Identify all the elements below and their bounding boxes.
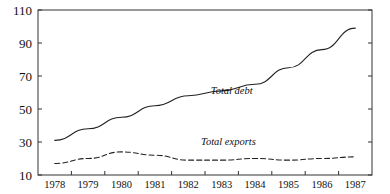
y-axis-tick-label: 70 xyxy=(19,69,32,84)
y-axis-tick-label: 90 xyxy=(19,36,32,51)
series-annotation-total-exports: Total exports xyxy=(201,136,256,147)
x-axis-tick-label: 1982 xyxy=(178,179,199,190)
x-axis-tick-label: 1984 xyxy=(245,179,267,190)
y-axis-tick-label: 10 xyxy=(19,168,32,183)
chart-container: 1030507090110 19781979198019811982198319… xyxy=(0,0,390,194)
chart-background xyxy=(0,0,390,194)
series-annotation-total-debt: Total debt xyxy=(211,85,254,96)
y-axis-tick-label: 30 xyxy=(19,135,32,150)
x-axis-tick-label: 1985 xyxy=(278,179,299,190)
y-axis-tick-label: 50 xyxy=(19,102,32,117)
x-axis-tick-label: 1978 xyxy=(44,179,65,190)
x-axis-tick-label: 1979 xyxy=(78,179,99,190)
x-axis-tick-label: 1986 xyxy=(311,179,332,190)
x-axis-tick-label: 1987 xyxy=(345,179,366,190)
line-chart: 1030507090110 19781979198019811982198319… xyxy=(0,0,390,194)
y-axis-tick-label: 110 xyxy=(13,3,32,18)
x-axis-tick-label: 1983 xyxy=(211,179,232,190)
x-axis-tick-label: 1980 xyxy=(111,179,132,190)
x-axis-tick-label: 1981 xyxy=(144,179,165,190)
